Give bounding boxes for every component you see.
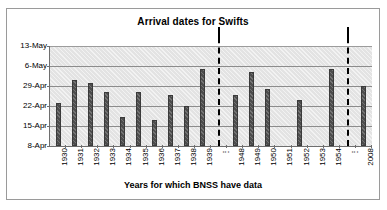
- chart-frame: Arrival dates for Swifts 13-May6-May29-A…: [6, 8, 380, 200]
- axis-break-marker-cap: [347, 27, 349, 38]
- gridline: [50, 46, 372, 47]
- x-axis-tick-label: 1938: [190, 148, 198, 166]
- bar: [361, 86, 366, 146]
- gridline: [50, 106, 372, 107]
- x-axis-tick-label: 1935: [142, 148, 150, 166]
- y-axis-tick-label: 13-May: [7, 42, 47, 50]
- bar: [297, 100, 302, 146]
- axis-break-marker-cap: [218, 27, 220, 38]
- bar: [329, 69, 334, 146]
- gridline: [50, 66, 372, 67]
- chart-title: Arrival dates for Swifts: [7, 16, 379, 27]
- axis-break-marker: [218, 27, 220, 146]
- y-axis-tick-label: 15-Apr: [7, 122, 47, 130]
- x-axis-tick-label: 1936: [158, 148, 166, 166]
- x-axis-tick-label: 1933: [109, 148, 117, 166]
- y-axis: 13-May6-May29-Apr22-Apr15-Apr8-Apr: [7, 46, 47, 146]
- bar: [56, 103, 61, 146]
- y-axis-tick-label: 6-May: [7, 62, 47, 70]
- bar: [136, 92, 141, 146]
- x-axis-tick-label: 1953: [319, 148, 327, 166]
- bar: [72, 80, 77, 146]
- plot-area: [49, 46, 372, 147]
- y-axis-tick-label: 8-Apr: [7, 142, 47, 150]
- x-axis-tick-label: 1930: [61, 148, 69, 166]
- x-axis-tick-label: 2008: [367, 148, 375, 166]
- x-axis-tick-label: 1932: [93, 148, 101, 166]
- y-axis-tick-label: 22-Apr: [7, 102, 47, 110]
- gridline: [50, 126, 372, 127]
- x-axis-tick-label: 1954: [335, 148, 343, 166]
- x-axis-tick-label: 1934: [125, 148, 133, 166]
- bar: [88, 83, 93, 146]
- bar: [168, 95, 173, 146]
- x-axis-tick-label: 1939: [206, 148, 214, 166]
- bar: [265, 89, 270, 146]
- bar: [233, 95, 238, 146]
- plot-hatch: [50, 46, 372, 146]
- bar: [120, 117, 125, 146]
- bar: [200, 69, 205, 146]
- x-axis-tick-label: ⋮: [351, 148, 359, 156]
- x-axis-tick-label: 1931: [77, 148, 85, 166]
- gridline: [50, 86, 372, 87]
- x-axis-tick-label: 1948: [238, 148, 246, 166]
- x-axis-tick-label: ⋮: [222, 148, 230, 156]
- x-axis-title: Years for which BNSS have data: [7, 180, 379, 190]
- axis-break-marker: [347, 27, 349, 146]
- x-axis-tick-label: 1950: [270, 148, 278, 166]
- bar: [152, 120, 157, 146]
- x-axis-tick-label: 1952: [303, 148, 311, 166]
- x-axis-tick-label: 1949: [254, 148, 262, 166]
- bar: [184, 106, 189, 146]
- bar: [104, 92, 109, 146]
- x-axis-tick-label: 1951: [286, 148, 294, 166]
- x-axis-tick-label: 1937: [174, 148, 182, 166]
- bar: [249, 72, 254, 146]
- y-axis-tick-label: 29-Apr: [7, 82, 47, 90]
- x-axis: 1930193119321933193419351936193719381939…: [49, 148, 371, 181]
